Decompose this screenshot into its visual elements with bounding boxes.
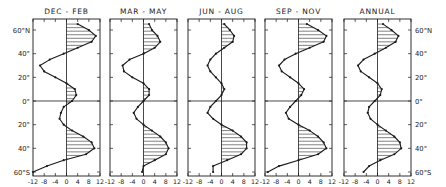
data-point	[74, 88, 76, 90]
data-point	[281, 70, 283, 72]
data-point	[43, 70, 45, 72]
latitude-label-right: 40°	[415, 50, 427, 58]
left-latitude-axis: 60°N40°20°0°20°40°60°S	[13, 27, 30, 177]
data-point	[385, 129, 387, 131]
data-point	[317, 153, 319, 155]
data-point	[303, 88, 305, 90]
panel-title: DEC - FEB	[44, 7, 89, 16]
data-point	[297, 124, 299, 126]
x-tick-label: 8	[164, 178, 168, 185]
data-point	[137, 106, 139, 108]
data-point	[88, 29, 90, 31]
data-point	[381, 88, 383, 90]
data-point	[223, 23, 225, 25]
data-point	[368, 106, 370, 108]
data-point	[379, 159, 381, 161]
data-point	[58, 118, 60, 120]
x-tick-label: -8	[118, 178, 124, 185]
data-point	[206, 64, 208, 66]
latitude-label-left: 20°	[18, 74, 30, 82]
right-latitude-axis: 60°N40°20°0°20°40°60°S	[415, 27, 432, 177]
x-tick-label: 12	[96, 178, 104, 185]
data-point	[368, 165, 370, 167]
data-point	[325, 35, 327, 37]
data-point	[215, 53, 217, 55]
data-point	[376, 82, 378, 84]
x-tick-label: 4	[387, 178, 391, 185]
data-point	[212, 118, 214, 120]
x-tick-label: -12	[28, 178, 38, 185]
data-point	[300, 94, 302, 96]
profile-curve	[33, 24, 96, 172]
data-point	[71, 129, 73, 131]
x-tick-label: -4	[284, 178, 290, 185]
data-point	[148, 23, 150, 25]
data-point	[393, 153, 395, 155]
data-point	[399, 141, 401, 143]
data-point	[49, 58, 51, 60]
data-point	[374, 100, 376, 102]
data-point	[154, 159, 156, 161]
data-point	[77, 47, 79, 49]
data-point	[323, 41, 325, 43]
data-point	[395, 41, 397, 43]
latitude-label-left: 60°N	[13, 27, 30, 35]
data-point	[75, 94, 77, 96]
panel-jun-aug: JUN - AUG-12-8-404812	[183, 7, 259, 185]
x-tick-label: 4	[76, 178, 80, 185]
data-point	[123, 70, 125, 72]
data-point	[229, 29, 231, 31]
data-point	[289, 106, 291, 108]
data-point	[165, 153, 167, 155]
data-point	[151, 129, 153, 131]
data-point	[206, 112, 208, 114]
data-point	[65, 82, 67, 84]
data-point	[82, 135, 84, 137]
data-point	[306, 23, 308, 25]
x-tick-label: 0	[64, 178, 68, 185]
data-point	[278, 64, 280, 66]
latitude-label-left: 40°	[18, 50, 30, 58]
data-point	[285, 112, 287, 114]
data-point	[288, 118, 290, 120]
data-point	[317, 135, 319, 137]
data-point	[379, 94, 381, 96]
data-point	[297, 82, 299, 84]
data-point	[223, 47, 225, 49]
data-point	[91, 41, 93, 43]
data-point	[63, 159, 65, 161]
profile-curve	[123, 24, 169, 172]
data-point	[63, 53, 65, 55]
data-point	[165, 141, 167, 143]
data-point	[325, 147, 327, 149]
x-tick-label: -4	[207, 178, 213, 185]
x-tick-label: 12	[328, 178, 336, 185]
data-point	[267, 171, 269, 173]
data-point	[220, 124, 222, 126]
data-point	[141, 171, 143, 173]
x-tick-label: 4	[231, 178, 235, 185]
data-point	[240, 135, 242, 137]
data-point	[232, 41, 234, 43]
latitude-label-left: 0°	[22, 98, 30, 106]
latitude-label-left: 60°S	[14, 169, 30, 177]
data-point	[367, 112, 369, 114]
x-tick-label: -8	[196, 178, 202, 185]
data-point	[362, 171, 364, 173]
data-point	[390, 29, 392, 31]
panel-title: ANNUAL	[360, 7, 396, 16]
data-point	[32, 171, 34, 173]
data-point	[278, 165, 280, 167]
data-point	[400, 147, 402, 149]
data-point	[121, 64, 123, 66]
data-point	[212, 165, 214, 167]
data-point	[323, 141, 325, 143]
data-point	[131, 76, 133, 78]
data-point	[376, 124, 378, 126]
data-point	[91, 141, 93, 143]
data-point	[159, 41, 161, 43]
data-point	[142, 82, 144, 84]
x-tick-label: -8	[352, 178, 358, 185]
profile-curve	[208, 24, 247, 172]
panel-title: JUN - AUG	[198, 7, 243, 16]
